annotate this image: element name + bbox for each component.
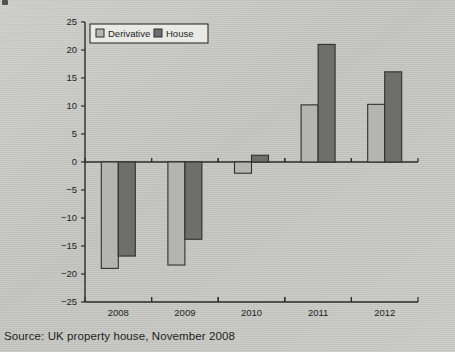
x-tick-label: 2012 bbox=[374, 307, 395, 318]
bar-chart: 2520151050−5−10−15−20−25 200820092010201… bbox=[0, 0, 455, 352]
bar-derivative-2010 bbox=[235, 162, 252, 173]
bar-derivative-2011 bbox=[301, 105, 318, 162]
legend-swatch-derivative bbox=[96, 29, 104, 37]
y-tick-label: 25 bbox=[66, 16, 77, 27]
chart-legend: Derivative House bbox=[90, 24, 208, 43]
legend-label-house: House bbox=[166, 28, 193, 39]
bar-house-2011 bbox=[318, 44, 335, 162]
x-tick-label: 2008 bbox=[108, 307, 129, 318]
y-tick-label: 10 bbox=[66, 100, 77, 111]
chart-svg: 2520151050−5−10−15−20−25 200820092010201… bbox=[0, 0, 455, 352]
bars-group bbox=[101, 44, 401, 268]
x-tick-label: 2011 bbox=[308, 307, 328, 318]
bar-house-2008 bbox=[118, 162, 135, 256]
bar-derivative-2008 bbox=[101, 162, 118, 268]
x-tick-label: 2010 bbox=[241, 307, 262, 318]
bar-house-2009 bbox=[185, 162, 202, 239]
bar-house-2012 bbox=[385, 72, 402, 162]
bar-house-2010 bbox=[252, 155, 269, 162]
y-axis-ticks: 2520151050−5−10−15−20−25 bbox=[61, 16, 85, 307]
y-tick-label: −20 bbox=[61, 268, 77, 279]
source-note: Source: UK property house, November 2008 bbox=[4, 330, 235, 342]
y-tick-label: −5 bbox=[66, 184, 77, 195]
y-tick-label: −25 bbox=[61, 296, 77, 307]
y-tick-label: 5 bbox=[72, 128, 77, 139]
x-tick-label: 2009 bbox=[174, 307, 195, 318]
y-tick-label: 15 bbox=[66, 72, 77, 83]
bar-derivative-2012 bbox=[368, 104, 385, 162]
y-tick-label: 0 bbox=[72, 156, 77, 167]
y-tick-label: −10 bbox=[61, 212, 77, 223]
legend-label-derivative: Derivative bbox=[108, 28, 150, 39]
legend-swatch-house bbox=[154, 29, 162, 37]
y-tick-label: 20 bbox=[66, 44, 77, 55]
y-tick-label: −15 bbox=[61, 240, 77, 251]
bar-derivative-2009 bbox=[168, 162, 185, 265]
